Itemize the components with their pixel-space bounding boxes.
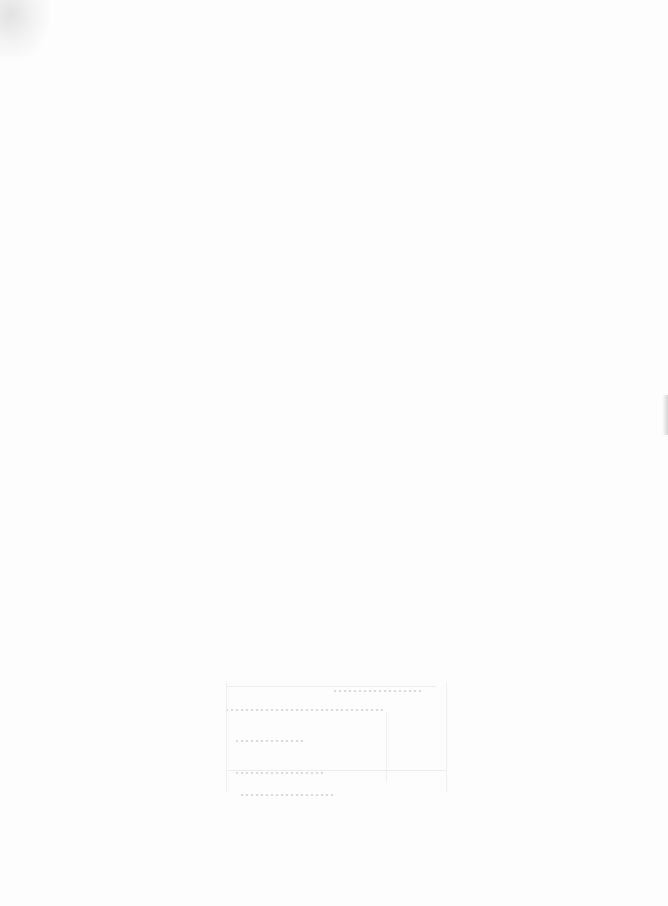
- corner-smudge: [0, 0, 50, 60]
- table-rule: [226, 770, 446, 771]
- faded-text: [236, 772, 326, 774]
- table-rule: [386, 712, 387, 782]
- edge-shadow: [662, 395, 668, 435]
- faded-text: [241, 794, 336, 796]
- table-rule: [226, 682, 227, 792]
- table-rule: [446, 682, 447, 792]
- faded-text: [236, 740, 306, 742]
- table-rule: [226, 686, 436, 687]
- faded-text: [226, 709, 386, 711]
- faded-text: [334, 690, 424, 692]
- faded-table: [226, 682, 448, 800]
